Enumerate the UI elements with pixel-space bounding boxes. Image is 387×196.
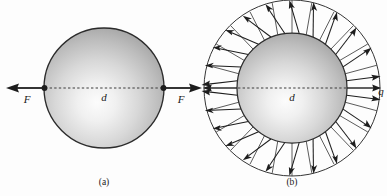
caption-a: (a) bbox=[99, 177, 110, 188]
physics-figure: F F d (a) bbox=[0, 0, 387, 196]
charge-label-q: q bbox=[378, 85, 384, 97]
force-label-left: F bbox=[23, 93, 31, 105]
caption-b: (b) bbox=[286, 177, 297, 188]
figure-container: F F d (a) bbox=[0, 0, 387, 196]
force-label-right: F bbox=[177, 93, 185, 105]
diameter-label-b: d bbox=[289, 91, 295, 103]
diameter-label-a: d bbox=[101, 91, 107, 103]
